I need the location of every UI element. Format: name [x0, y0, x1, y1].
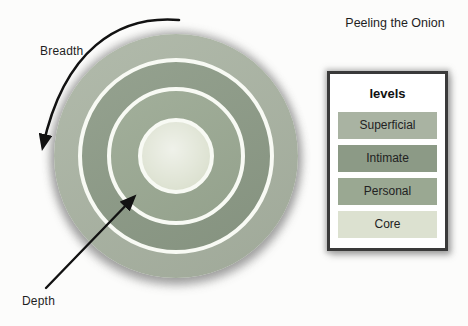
depth-label: Depth — [22, 294, 55, 308]
breadth-label: Breadth — [40, 44, 83, 58]
legend-item-intimate: Intimate — [338, 145, 437, 172]
diagram-canvas: Peeling the Onion Breadth Depth levels S… — [0, 0, 468, 326]
onion-diagram — [54, 34, 298, 278]
diagram-title: Peeling the Onion — [330, 16, 460, 30]
legend-box: levels Superficial Intimate Personal Cor… — [327, 71, 448, 251]
legend-header: levels — [330, 86, 445, 101]
legend-item-personal: Personal — [338, 178, 437, 205]
ring-core — [138, 118, 214, 194]
legend-item-core: Core — [338, 211, 437, 238]
legend-item-superficial: Superficial — [338, 112, 437, 139]
